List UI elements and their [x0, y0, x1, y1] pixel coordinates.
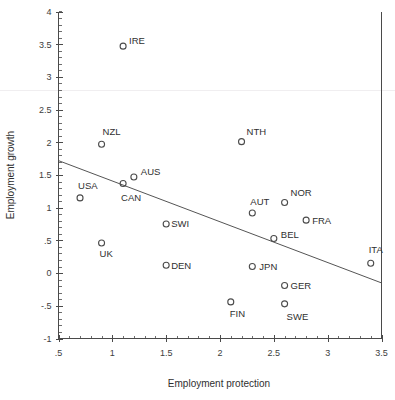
point-label-ger: GER: [291, 280, 312, 291]
y-tick-label-15: 1.5: [39, 170, 52, 180]
x-tick-label-25: 2.5: [268, 348, 281, 358]
point-label-uk: UK: [100, 248, 114, 259]
y-tick-label-0: 0: [46, 268, 51, 278]
point-label-nzl: NZL: [103, 126, 121, 137]
x-tick-label-5: .5: [55, 348, 63, 358]
x-tick-label-1: 1: [110, 348, 115, 358]
y-tick-label-5: .5: [44, 236, 52, 246]
y-tick-label-1: 1: [46, 203, 51, 213]
point-label-fra: FRA: [312, 215, 332, 226]
x-tick-label-35: 3.5: [375, 348, 388, 358]
point-label-ita: ITA: [369, 244, 384, 255]
scatter-chart-figure: 43.532.521.51.50-.5-1 .511.522.533.5 IRE…: [0, 0, 395, 400]
y-tick-label-35: 3.5: [39, 40, 52, 50]
x-tick-label-15: 1.5: [160, 348, 173, 358]
point-label-usa: USA: [78, 180, 98, 191]
y-tick-label-25: 2.5: [39, 105, 52, 115]
point-label-nor: NOR: [291, 187, 312, 198]
point-label-bel: BEL: [281, 229, 299, 240]
point-label-fin: FIN: [230, 308, 245, 319]
y-tick-label-4: 4: [46, 7, 51, 17]
y-axis-title: Employment growth: [5, 131, 16, 219]
point-label-jpn: JPN: [259, 261, 277, 272]
x-tick-label-3: 3: [325, 348, 330, 358]
point-label-can: CAN: [121, 192, 141, 203]
y-tick-label-3: 3: [46, 72, 51, 82]
point-label-swe: SWE: [287, 311, 309, 322]
point-label-den: DEN: [171, 260, 191, 271]
x-tick-label-2: 2: [217, 348, 222, 358]
point-label-nth: NTH: [247, 126, 267, 137]
y-tick-label-1: -1: [43, 334, 51, 344]
point-label-ire: IRE: [129, 35, 145, 46]
x-axis-title: Employment protection: [168, 378, 270, 389]
point-label-aut: AUT: [250, 196, 269, 207]
y-tick-label-2: 2: [46, 138, 51, 148]
employment-scatter-plot: 43.532.521.51.50-.5-1 .511.522.533.5 IRE…: [0, 0, 395, 400]
point-label-aus: AUS: [141, 166, 161, 177]
y-tick-label-5: -.5: [41, 301, 52, 311]
point-label-swi: SWI: [171, 218, 189, 229]
